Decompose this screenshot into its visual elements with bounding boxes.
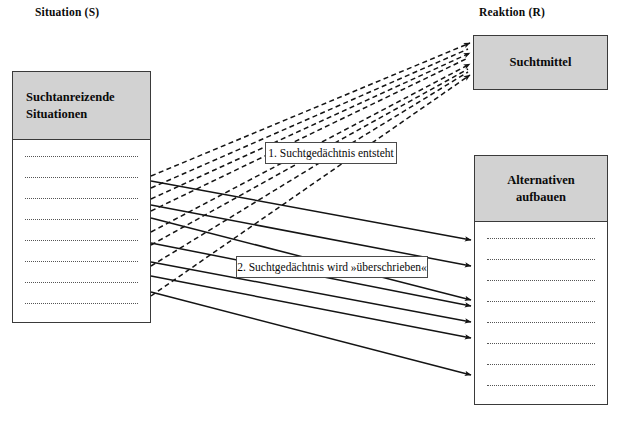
arrow-layer <box>0 0 621 421</box>
callout-suchtgedaechtnis-ueberschrieben: 2. Suchtgedächtnis wird »überschrieben« <box>236 256 428 278</box>
solid-arrow-to-alternativen <box>151 276 471 338</box>
dashed-arrow-to-suchtmittel <box>151 53 470 199</box>
solid-arrow-to-alternativen <box>151 292 471 375</box>
diagram-canvas: Situation (S) Reaktion (R) <box>0 0 621 421</box>
dashed-strand <box>151 58 468 211</box>
dashed-strand <box>151 49 468 188</box>
callout-suchtgedaechtnis-entsteht: 1. Suchtgedächtnis entsteht <box>265 142 397 164</box>
solid-arrow-group <box>151 181 471 375</box>
dashed-strand <box>151 72 468 266</box>
solid-arrow-to-alternativen <box>151 181 471 240</box>
